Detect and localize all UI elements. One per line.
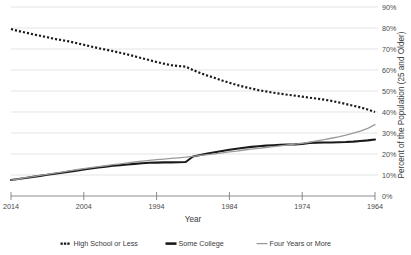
y-axis-tick-label: 40% [382, 108, 397, 117]
gridlines-group [11, 7, 378, 175]
x-axis-labels-group: 201420041994198419741964 [3, 202, 383, 211]
legend-label-2: Four Years or More [270, 239, 332, 248]
x-axis-group [11, 192, 375, 200]
y-axis-tick-label: 20% [382, 150, 397, 159]
chart-plot-area: 0%10%20%30%40%50%60%70%80%90% 2014200419… [0, 0, 411, 255]
x-axis-title: Year [185, 215, 202, 224]
series-line-1 [11, 140, 375, 181]
x-axis-tick-label: 2014 [3, 202, 19, 211]
y-axis-tick-label: 70% [382, 45, 397, 54]
legend-label-0: High School or Less [74, 239, 139, 248]
x-axis-tick-label: 1964 [367, 202, 383, 211]
x-axis-tick-label: 1984 [221, 202, 237, 211]
line-chart: 0%10%20%30%40%50%60%70%80%90% 2014200419… [0, 0, 411, 255]
legend-marker-dotted [67, 243, 69, 245]
y-axis-tick-label: 60% [382, 66, 397, 75]
y-axis-tick-label: 10% [382, 171, 397, 180]
x-axis-tick-label: 1994 [149, 202, 165, 211]
y-axis-tick-label: 0% [382, 192, 393, 201]
legend-group: High School or LessSome CollegeFour Year… [61, 239, 332, 248]
legend-marker-dotted [61, 243, 63, 245]
y-axis-labels-group: 0%10%20%30%40%50%60%70%80%90% [382, 3, 397, 201]
series-line-0 [11, 29, 375, 112]
y-axis-tick-label: 50% [382, 87, 397, 96]
y-axis-tick-label: 30% [382, 129, 397, 138]
legend-label-1: Some College [179, 239, 224, 248]
x-axis-tick-label: 1974 [294, 202, 310, 211]
series-group [11, 29, 375, 180]
y-axis-tick-label: 90% [382, 3, 397, 12]
x-axis-tick-label: 2004 [76, 202, 92, 211]
legend-marker-dotted [64, 243, 66, 245]
y-axis-tick-label: 80% [382, 24, 397, 33]
y-axis-title: Percent of the Population (25 and Older) [397, 31, 406, 178]
